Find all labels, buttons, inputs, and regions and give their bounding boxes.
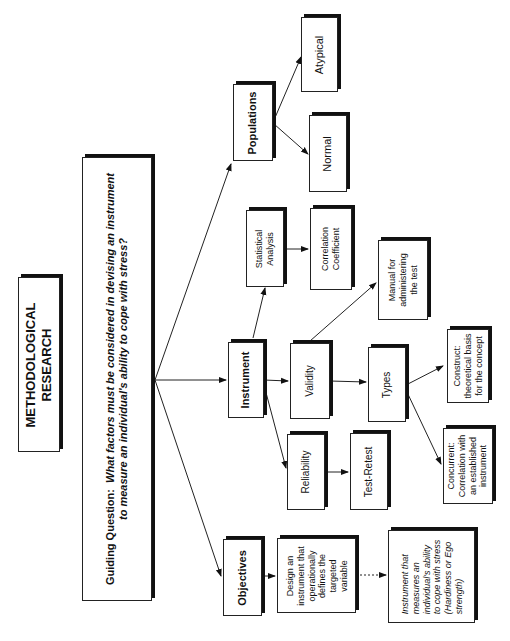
node-outcome-line6: strength) [453,539,464,614]
node-outcome-line3: individual's ability [421,539,432,614]
node-concurrent-line2: Correlation with [457,435,468,498]
node-instrument: Instrument [228,342,264,418]
title-line1: METHODOLOGICAL [23,302,39,427]
node-design-line6: variable [338,546,349,606]
guiding-question-line2: to measure an individual's ability to co… [117,173,130,585]
node-test-retest-label: Test-Retest [363,446,375,497]
node-correlation-coefficient-line2: Coefficient [331,227,342,271]
node-outcome-line5: (Hardiness or Ego [442,539,453,614]
node-atypical-label: Atypical [313,35,326,74]
node-types-label: Types [381,371,393,398]
node-construct-line2: theoretical basis [463,333,474,398]
node-design: Design an instrument that operationally … [277,538,356,613]
node-validity: Validity [290,343,330,419]
title-box: METHODOLOGICAL RESEARCH [18,277,60,452]
node-normal: Normal [309,115,347,192]
node-reliability-label: Reliability [300,451,312,494]
node-design-line3: operationally [306,546,317,606]
node-design-line5: targeted [327,546,338,606]
node-populations-label: Populations [246,91,259,154]
node-outcome: Instrument that measures an individual's… [388,530,475,623]
node-design-line4: defines the [317,546,328,606]
node-test-retest: Test-Retest [350,433,388,510]
node-statistical-analysis: Statistical Analysis [246,210,284,287]
node-types: Types [368,347,406,422]
node-concurrent-line1: Concurrent: [446,435,457,498]
node-concurrent-line4: instrument [479,435,490,498]
node-construct: Construct: theoretical basis for the con… [447,329,489,403]
node-objectives-label: Objectives [236,550,249,606]
node-manual-line1: Manual for [387,253,398,307]
node-construct-line3: for the concept [473,333,484,398]
node-manual: Manual for administering the test [378,240,428,320]
node-outcome-line4: to cope with stress [432,539,443,614]
node-concurrent-line3: an established [468,435,479,498]
node-statistical-analysis-line1: Statistical [254,229,265,268]
node-atypical: Atypical [301,17,338,92]
node-design-line2: instrument that [295,546,306,606]
guiding-question-line1: What factors must be considered in devis… [104,173,116,483]
node-correlation-coefficient-line1: Correlation [320,227,331,271]
node-construct-line1: Construct: [452,333,463,398]
node-populations: Populations [233,84,273,161]
node-correlation-coefficient: Correlation Coefficient [310,208,352,290]
guiding-question-box: Guiding Question: What factors must be c… [82,157,152,601]
node-reliability: Reliability [287,434,325,510]
node-statistical-analysis-line2: Analysis [265,229,276,268]
guiding-question-label: Guiding Question: [104,489,116,585]
node-instrument-label: Instrument [239,352,252,409]
node-manual-line2: administering [398,253,409,307]
node-validity-label: Validity [304,365,316,397]
node-normal-label: Normal [321,136,334,171]
title-line2: RESEARCH [39,302,55,427]
node-outcome-line2: measures an [410,539,421,614]
node-concurrent: Concurrent: Correlation with an establis… [443,428,493,504]
node-manual-line3: the test [408,253,419,307]
node-outcome-line1: Instrument that [399,539,410,614]
node-objectives: Objectives [223,539,262,616]
node-design-line1: Design an [284,546,295,606]
